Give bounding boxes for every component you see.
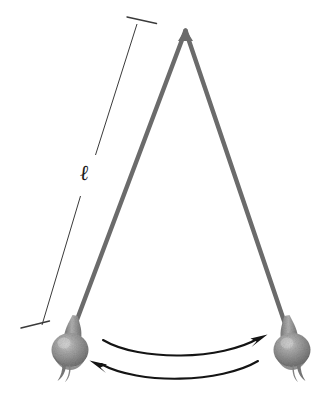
bob-highlight-left bbox=[58, 338, 71, 349]
pivot-point bbox=[178, 29, 193, 41]
swing-arrows bbox=[90, 335, 268, 379]
pendulum-strings bbox=[71, 29, 290, 337]
bob-tail-right bbox=[297, 364, 306, 381]
dimension-line-lower-segment bbox=[42, 196, 81, 325]
swing-arrow-leftward-shaft bbox=[101, 361, 258, 379]
dimension-tick-top bbox=[127, 17, 157, 24]
string-right bbox=[186, 31, 290, 338]
dimension-line-upper-segment bbox=[96, 24, 138, 155]
dimension-tick-bottom bbox=[21, 321, 50, 328]
pendulum-bob-right bbox=[274, 315, 311, 382]
swing-arrow-rightward-shaft bbox=[103, 338, 259, 356]
pendulum-figure: ℓ Simple pendulum swinging between two e… bbox=[0, 0, 329, 410]
pendulum-diagram-svg bbox=[0, 0, 329, 410]
bob-highlight-right bbox=[281, 338, 294, 349]
length-label-ell: ℓ bbox=[79, 162, 89, 184]
pendulum-bob-left bbox=[52, 315, 89, 382]
